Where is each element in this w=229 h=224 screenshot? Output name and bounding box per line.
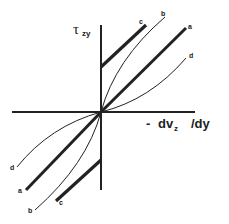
label-b-lower: b xyxy=(28,207,32,214)
y-axis-subscript: zy xyxy=(82,29,91,38)
x-axis-label-suffix: /dy xyxy=(191,116,211,131)
label-a-upper: a xyxy=(188,23,192,30)
label-d-upper: d xyxy=(189,52,193,59)
x-axis-label-prefix: - xyxy=(146,116,150,131)
label-d-lower: d xyxy=(10,164,14,171)
x-axis-label-main: dv xyxy=(158,116,174,131)
label-a-lower: a xyxy=(18,187,22,194)
flow-curve-diagram: c b a d d a b c τ zy - dv z /dy xyxy=(0,0,229,224)
label-c-lower: c xyxy=(59,199,63,206)
label-c-upper: c xyxy=(139,18,143,25)
y-axis-label: τ xyxy=(73,21,79,37)
x-axis-label-sub: z xyxy=(174,124,178,133)
curve-a xyxy=(26,28,186,190)
label-b-upper: b xyxy=(161,10,165,17)
